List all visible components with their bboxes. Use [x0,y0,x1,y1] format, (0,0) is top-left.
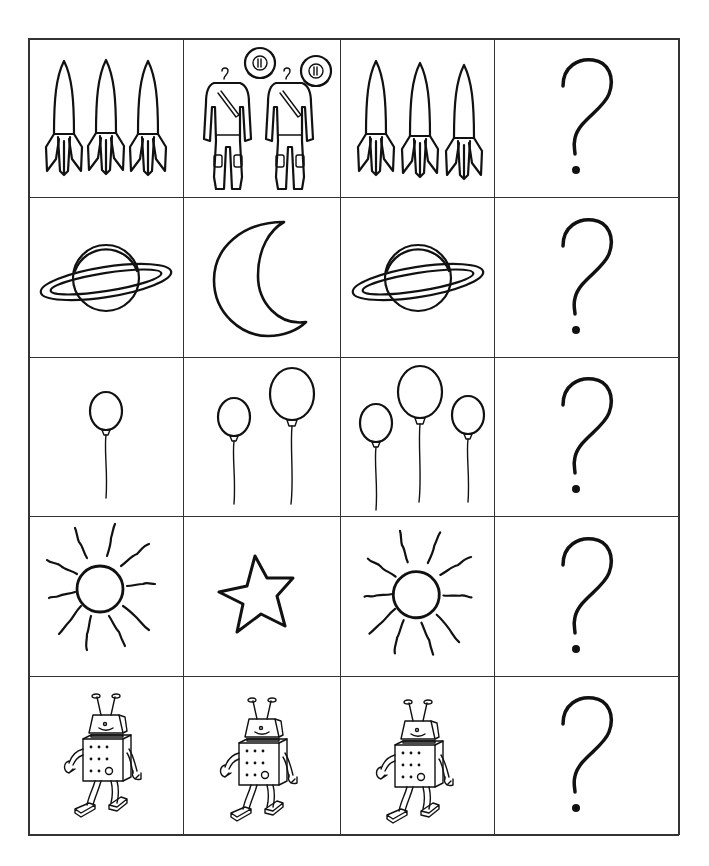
balloon-icon [348,362,488,512]
cell-r3-c2 [184,358,340,516]
cell-r2-c4[interactable]: ? [495,198,678,357]
cell-r1-c2 [184,38,340,197]
saturn-planet-icon [36,238,176,318]
cell-r1-c1 [28,38,183,197]
grid-border-right [678,38,680,835]
cell-r5-c1 [28,677,183,834]
robot-icon [61,691,151,821]
sun-icon [343,522,493,672]
cell-r2-c1 [28,198,183,357]
balloon-icon [36,362,176,512]
crescent-moon-icon [212,218,312,338]
cell-r5-c2 [184,677,340,834]
grid-border-bottom [28,834,679,836]
sun-icon [31,522,181,672]
cell-r3-c4[interactable]: ? [495,358,678,516]
cell-r2-c3 [341,198,494,357]
question-mark-icon [557,377,617,497]
pattern-worksheet-grid: ? ? [28,38,679,835]
saturn-planet-icon [348,238,488,318]
cell-r5-c4[interactable]: ? [495,677,678,834]
cell-r4-c1 [28,517,183,676]
question-mark-icon [557,58,617,178]
cell-r4-c3 [341,517,494,676]
question-mark-icon [557,218,617,338]
cell-r2-c2 [184,198,340,357]
rocket-icon [348,53,488,183]
cell-r4-c4[interactable]: ? [495,517,678,676]
robot-icon [373,691,463,821]
spacesuit-icon [192,43,332,193]
cell-r5-c3 [341,677,494,834]
cell-r1-c4[interactable]: ? [495,38,678,197]
star-icon [217,552,307,642]
cell-r1-c3 [341,38,494,197]
cell-r3-c3 [341,358,494,516]
cell-r4-c2 [184,517,340,676]
question-mark-icon [557,696,617,816]
question-mark-icon [557,537,617,657]
rocket-icon [36,53,176,183]
robot-icon [217,691,307,821]
cell-r3-c1 [28,358,183,516]
balloon-icon [192,362,332,512]
